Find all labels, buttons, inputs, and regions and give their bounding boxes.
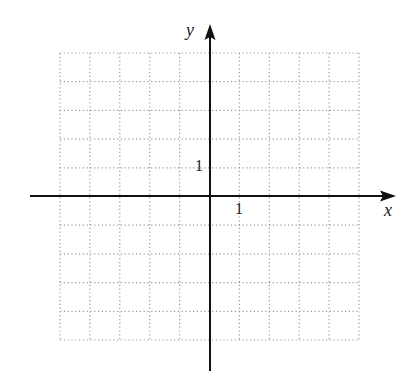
y-tick-label-1: 1 xyxy=(195,157,203,175)
x-axis xyxy=(30,191,396,202)
y-axis xyxy=(205,24,216,371)
x-tick-label-1: 1 xyxy=(235,200,243,218)
coordinate-plane xyxy=(0,0,419,377)
x-axis-label: x xyxy=(384,200,392,221)
y-axis-label: y xyxy=(186,20,194,41)
